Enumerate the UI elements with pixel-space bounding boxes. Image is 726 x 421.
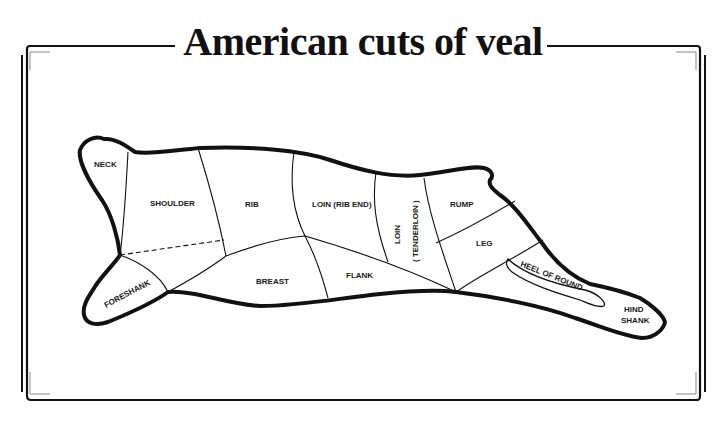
- diagram-title-wrap: American cuts of veal: [0, 18, 726, 66]
- diagram-title: American cuts of veal: [179, 19, 546, 64]
- cut-label-tenderloin-sub: ( TENDERLOIN ): [411, 200, 420, 262]
- cut-label-hind: HIND: [624, 305, 644, 314]
- veal-outline: [80, 138, 665, 338]
- cut-label-shoulder: SHOULDER: [150, 199, 195, 208]
- cut-label-shank: SHANK: [621, 316, 650, 325]
- cut-label-leg: LEG: [476, 239, 492, 248]
- cut-label-breast: BREAST: [256, 277, 289, 286]
- cut-label-loin-rib-end: LOIN (RIB END): [312, 200, 372, 209]
- cut-label-neck: NECK: [94, 160, 117, 169]
- cut-label-rib: RIB: [245, 200, 259, 209]
- cut-label-rump: RUMP: [450, 200, 474, 209]
- cut-label-flank: FLANK: [346, 271, 373, 280]
- cut-label-loin-tenderloin: LOIN: [393, 225, 402, 244]
